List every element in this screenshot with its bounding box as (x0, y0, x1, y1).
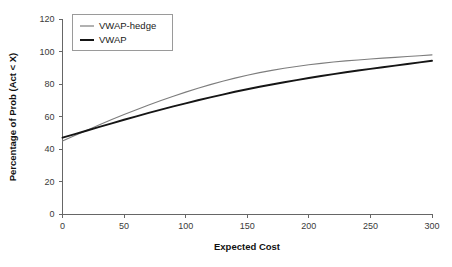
x-axis-title: Expected Cost (214, 241, 281, 252)
chart-legend: VWAP-hedge VWAP (73, 15, 173, 51)
y-tick-label: 0 (49, 209, 54, 219)
x-tick-label: 300 (424, 221, 439, 231)
x-tick-label: 150 (240, 221, 255, 231)
y-tick-label: 60 (44, 112, 54, 122)
y-axis-title: Percentage of Prob (Act < X) (7, 53, 18, 182)
chart-figure: 020406080100120 050100150200250300 Expec… (0, 0, 452, 267)
y-tick-label: 40 (44, 144, 54, 154)
y-tick-label: 80 (44, 79, 54, 89)
x-tick-label: 250 (363, 221, 378, 231)
y-tick-label: 100 (39, 47, 54, 57)
line-chart: 020406080100120 050100150200250300 Expec… (0, 0, 452, 267)
chart-background (0, 0, 452, 267)
x-tick-label: 100 (178, 221, 193, 231)
legend-label-vwap: VWAP (99, 34, 127, 45)
x-tick-label: 200 (301, 221, 316, 231)
y-tick-label: 20 (44, 177, 54, 187)
legend-label-vwap-hedge: VWAP-hedge (99, 20, 156, 31)
x-tick-label: 50 (119, 221, 129, 231)
y-tick-label: 120 (39, 14, 54, 24)
x-tick-label: 0 (60, 221, 65, 231)
